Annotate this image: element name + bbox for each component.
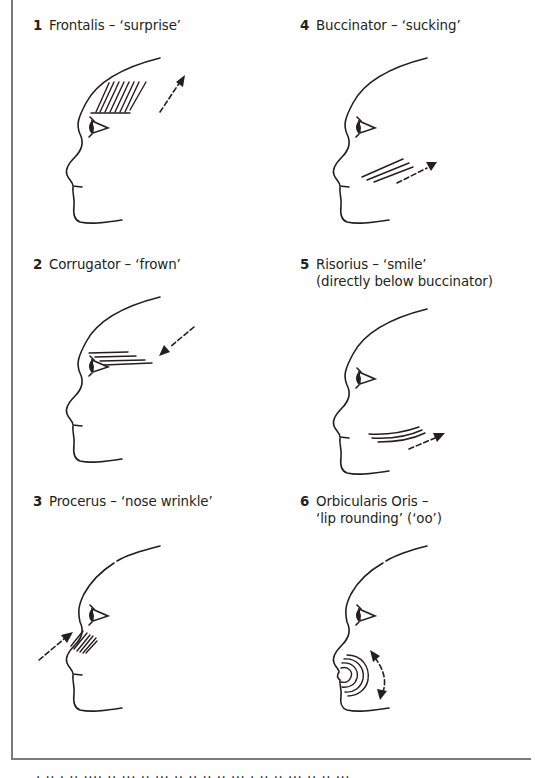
- face-profile-orbicularis-oris: [267, 488, 517, 718]
- panel-risorius: 5Risorius – ‘smile’ (directly below bucc…: [300, 256, 535, 491]
- frame-bottom-border: [11, 758, 531, 760]
- panel-orbicularis-oris: 6Orbicularis Oris – ‘lip rounding’ (‘oo’…: [300, 493, 535, 728]
- face-profile-frontalis: [0, 0, 250, 230]
- dashed-arrow-up-right-icon: [160, 75, 185, 112]
- face-profile-buccinator: [267, 0, 517, 230]
- panel-procerus: 3Procerus – ‘nose wrinkle’: [33, 493, 283, 728]
- dashed-arrow-up-right-icon: [409, 433, 445, 449]
- risorius-lines-icon: [369, 427, 425, 442]
- panel-buccinator: 4Buccinator – ‘sucking’: [300, 17, 535, 252]
- curved-double-arrow-icon: [370, 650, 387, 700]
- dashed-arrow-down-left-icon: [159, 327, 194, 356]
- cut-off-footer-text: · ·· · ·· ···· ·· ··· ·· ··· ·· ·· ·· ··…: [36, 770, 350, 778]
- panel-frontalis: 1Frontalis – ‘surprise’: [33, 17, 283, 252]
- orbicularis-arcs-icon: [341, 655, 368, 696]
- procerus-hatching-icon: [71, 631, 97, 653]
- face-profile-risorius: [267, 251, 517, 481]
- face-profile-procerus: [0, 488, 250, 718]
- face-profile-corrugator: [0, 239, 250, 469]
- panel-corrugator: 2Corrugator – ‘frown’: [33, 256, 283, 491]
